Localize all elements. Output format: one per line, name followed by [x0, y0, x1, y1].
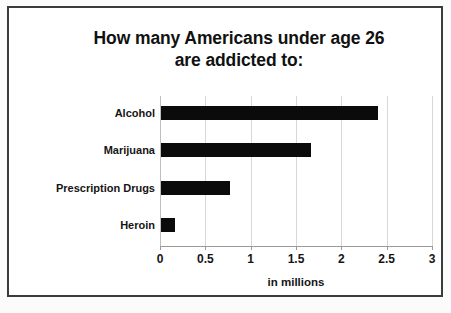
gridline-3 [432, 96, 433, 246]
chart-title-line-2: are addicted to: [39, 49, 439, 71]
x-tick-label-1: 1 [231, 252, 271, 266]
bar-series [160, 96, 432, 246]
tickmark-1.5 [296, 246, 297, 250]
tickmark-2 [341, 246, 342, 250]
chart-frame: How many Americans under age 26 are addi… [7, 6, 443, 297]
x-tick-label-0: 0 [140, 252, 180, 266]
plot-area [160, 96, 432, 246]
x-tick-label-2.5: 2.5 [367, 252, 407, 266]
tickmark-3 [432, 246, 433, 250]
category-label-prescription-drugs: Prescription Drugs [19, 182, 155, 194]
chart-title: How many Americans under age 26 are addi… [39, 27, 439, 71]
tickmark-0 [160, 246, 161, 250]
x-axis-tick-labels: 00.511.522.53 [9, 252, 451, 270]
x-tick-label-3: 3 [412, 252, 451, 266]
x-tick-label-2: 2 [321, 252, 361, 266]
category-labels: AlcoholMarijuanaPrescription DrugsHeroin [19, 96, 155, 246]
bar-prescription-drugs [160, 181, 230, 195]
bar-alcohol [160, 106, 378, 120]
chart-title-line-1: How many Americans under age 26 [94, 28, 385, 48]
x-axis-title: in millions [160, 276, 432, 288]
bar-heroin [160, 218, 175, 232]
tickmark-1 [251, 246, 252, 250]
bar-marijuana [160, 143, 311, 157]
chart-page: How many Americans under age 26 are addi… [0, 0, 451, 313]
tickmark-2.5 [387, 246, 388, 250]
y-axis-line [160, 96, 161, 246]
category-label-alcohol: Alcohol [19, 107, 155, 119]
x-tick-label-0.5: 0.5 [185, 252, 225, 266]
category-label-heroin: Heroin [19, 219, 155, 231]
tickmark-0.5 [205, 246, 206, 250]
x-tick-label-1.5: 1.5 [276, 252, 316, 266]
category-label-marijuana: Marijuana [19, 144, 155, 156]
